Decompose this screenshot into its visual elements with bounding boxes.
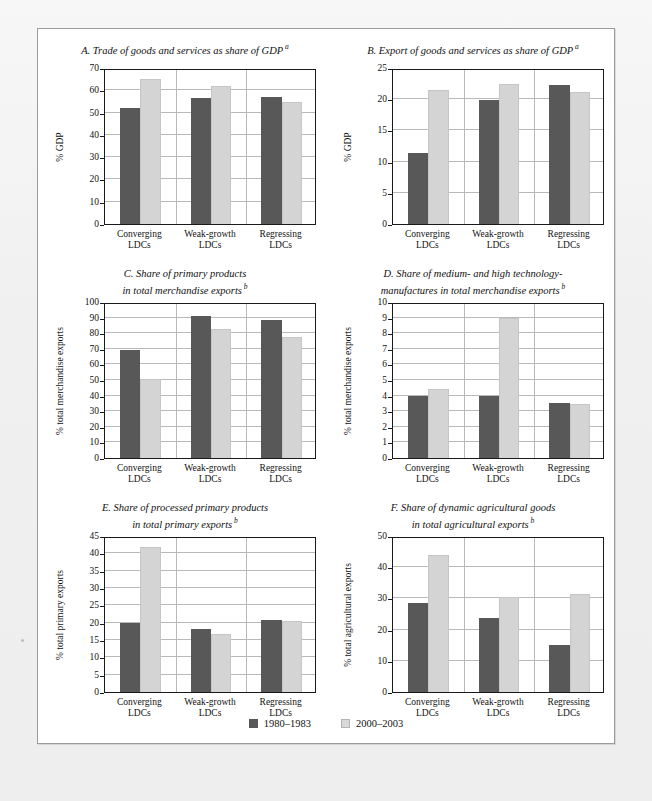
y-tick-label: 20 xyxy=(71,423,99,432)
scan-artifact-speck xyxy=(21,639,24,642)
x-tick-label-line2: LDCs xyxy=(463,240,534,251)
x-tick-label-line2: LDCs xyxy=(104,240,175,251)
x-tick-label-line2: LDCs xyxy=(175,474,246,485)
x-tick-label-line2: LDCs xyxy=(533,474,604,485)
y-tick-mark xyxy=(100,676,104,677)
y-axis-label: % total merchandise exports xyxy=(343,327,353,435)
y-tick-mark xyxy=(388,693,392,694)
y-tick-mark xyxy=(388,69,392,70)
bar-period2 xyxy=(140,379,160,458)
figure-page: A. Trade of goods and services as share … xyxy=(0,0,652,801)
y-tick-label: 50 xyxy=(71,376,99,385)
bar-period2 xyxy=(211,86,231,224)
y-tick-mark xyxy=(100,624,104,625)
y-tick-mark xyxy=(100,136,104,137)
gridline-horizontal xyxy=(393,317,603,318)
y-tick-mark xyxy=(100,537,104,538)
bar-period1 xyxy=(120,623,140,692)
y-tick-mark xyxy=(100,641,104,642)
chart-title-line2: in total agricultural exports b xyxy=(330,515,616,531)
x-tick-label-line1: Weak-growth xyxy=(175,463,246,474)
y-tick-label: 70 xyxy=(71,345,99,354)
y-tick-label: 30 xyxy=(71,153,99,162)
chart-grid: A. Trade of goods and services as share … xyxy=(38,29,614,743)
x-tick-label: RegressingLDCs xyxy=(245,463,316,485)
gridline-vertical xyxy=(176,538,177,692)
x-tick-label-line1: Regressing xyxy=(533,463,604,474)
chart-title-line1: D. Share of medium- and high technology- xyxy=(330,268,616,281)
y-tick-mark xyxy=(100,91,104,92)
y-tick-label: 25 xyxy=(71,601,99,610)
bar-period1 xyxy=(479,100,499,224)
gridline-vertical xyxy=(534,70,535,224)
y-axis-label: % total merchandise exports xyxy=(55,327,65,435)
y-tick-mark xyxy=(100,589,104,590)
chart-title: A. Trade of goods and services as share … xyxy=(42,41,328,57)
y-tick-mark xyxy=(388,568,392,569)
plot-area xyxy=(392,537,604,693)
bar-period2 xyxy=(570,92,590,224)
gridline-horizontal xyxy=(105,604,315,605)
y-tick-mark xyxy=(100,412,104,413)
gridline-horizontal xyxy=(393,363,603,364)
y-tick-mark xyxy=(388,131,392,132)
x-tick-label: RegressingLDCs xyxy=(245,697,316,719)
bar-period1 xyxy=(261,620,281,692)
bar-period2 xyxy=(428,389,448,458)
y-tick-mark xyxy=(100,693,104,694)
x-tick-label: RegressingLDCs xyxy=(533,463,604,485)
plot-area xyxy=(104,69,316,225)
y-tick-label: 10 xyxy=(71,653,99,662)
chart-a: A. Trade of goods and services as share … xyxy=(42,33,328,271)
gridline-vertical xyxy=(176,70,177,224)
bar-period1 xyxy=(191,98,211,224)
y-tick-mark xyxy=(100,572,104,573)
y-tick-mark xyxy=(388,303,392,304)
y-tick-mark xyxy=(100,350,104,351)
y-tick-mark xyxy=(388,412,392,413)
y-axis-label: % GDP xyxy=(343,132,353,161)
chart-title-line1: F. Share of dynamic agricultural goods xyxy=(330,502,616,515)
gridline-vertical xyxy=(246,304,247,458)
y-tick-label: 90 xyxy=(71,314,99,323)
x-tick-label: Weak-growthLDCs xyxy=(463,463,534,485)
y-tick-label: 8 xyxy=(359,329,387,338)
bar-period2 xyxy=(499,84,519,224)
y-tick-mark xyxy=(100,459,104,460)
chart-title: C. Share of primary productsin total mer… xyxy=(42,268,328,297)
legend-label-period2: 2000–2003 xyxy=(356,718,403,729)
bar-period2 xyxy=(282,337,302,458)
bar-period1 xyxy=(120,350,140,458)
y-tick-label: 40 xyxy=(71,392,99,401)
bar-period2 xyxy=(570,594,590,692)
x-tick-label: RegressingLDCs xyxy=(245,229,316,251)
y-tick-label: 50 xyxy=(359,532,387,541)
y-tick-label: 7 xyxy=(359,345,387,354)
gridline-vertical xyxy=(534,304,535,458)
chart-c: C. Share of primary productsin total mer… xyxy=(42,267,328,505)
y-tick-label: 0 xyxy=(359,220,387,229)
y-tick-mark xyxy=(100,397,104,398)
bar-period1 xyxy=(408,396,428,458)
gridline-vertical xyxy=(464,304,465,458)
y-tick-label: 15 xyxy=(359,126,387,135)
y-tick-mark xyxy=(388,350,392,351)
chart-title: F. Share of dynamic agricultural goodsin… xyxy=(330,502,616,531)
y-tick-label: 30 xyxy=(71,584,99,593)
y-tick-mark xyxy=(100,428,104,429)
gridline-horizontal xyxy=(105,89,315,90)
x-tick-label: Weak-growthLDCs xyxy=(463,697,534,719)
y-tick-mark xyxy=(388,428,392,429)
chart-title-line2: manufactures in total merchandise export… xyxy=(330,281,616,297)
bar-period1 xyxy=(408,153,428,224)
y-tick-mark xyxy=(388,225,392,226)
gridline-vertical xyxy=(176,304,177,458)
x-tick-label-line2: LDCs xyxy=(175,240,246,251)
y-tick-label: 5 xyxy=(71,671,99,680)
bar-period2 xyxy=(499,318,519,458)
gridline-horizontal xyxy=(393,379,603,380)
y-tick-mark xyxy=(100,203,104,204)
gridline-vertical xyxy=(464,538,465,692)
x-tick-label-line1: Regressing xyxy=(533,697,604,708)
y-tick-mark xyxy=(388,334,392,335)
